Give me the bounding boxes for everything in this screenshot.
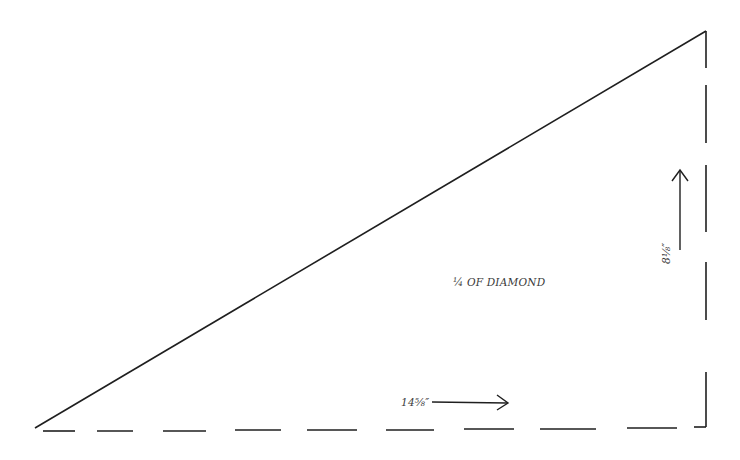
width-dimension-label: 14⅝″ — [401, 396, 429, 408]
height-arrow-icon — [672, 170, 688, 250]
height-dimension-label: 8⅛″ — [660, 243, 672, 264]
bottom-dashed-edge — [43, 427, 706, 431]
piece-title-label: ¼ OF DIAMOND — [453, 276, 545, 288]
width-arrow-icon — [432, 395, 508, 410]
hypotenuse-line — [35, 31, 706, 428]
pattern-diagram — [0, 0, 740, 460]
